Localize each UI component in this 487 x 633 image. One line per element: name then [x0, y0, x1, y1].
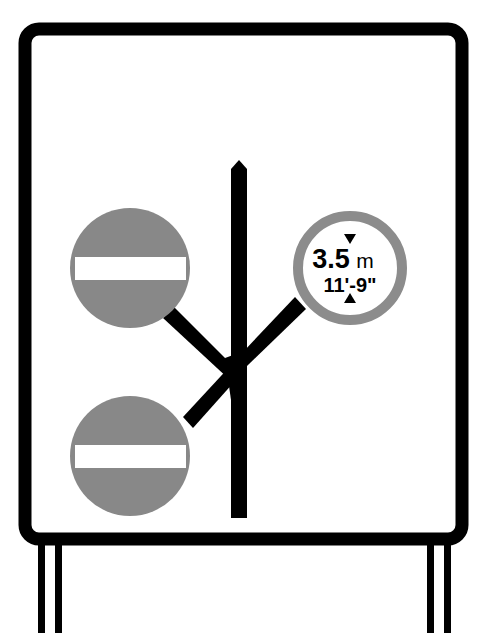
post-right-b	[444, 540, 451, 633]
no-entry-sign-upper	[70, 208, 190, 328]
height-metric-value: 3.5	[312, 244, 350, 274]
height-restriction-sign: 3.5 m 11'-9"	[298, 216, 402, 320]
post-right-a	[427, 540, 434, 633]
main-road	[231, 160, 247, 518]
height-imperial: 11'-9"	[323, 274, 376, 296]
no-entry-bar	[75, 257, 186, 280]
height-metric-unit: m	[356, 249, 374, 272]
post-left-b	[55, 540, 62, 633]
no-entry-bar	[75, 445, 186, 468]
road-sign-diagram: 3.5 m 11'-9"	[0, 0, 487, 633]
sign-posts	[38, 540, 451, 633]
no-entry-sign-lower	[70, 396, 190, 516]
post-left-a	[38, 540, 45, 633]
